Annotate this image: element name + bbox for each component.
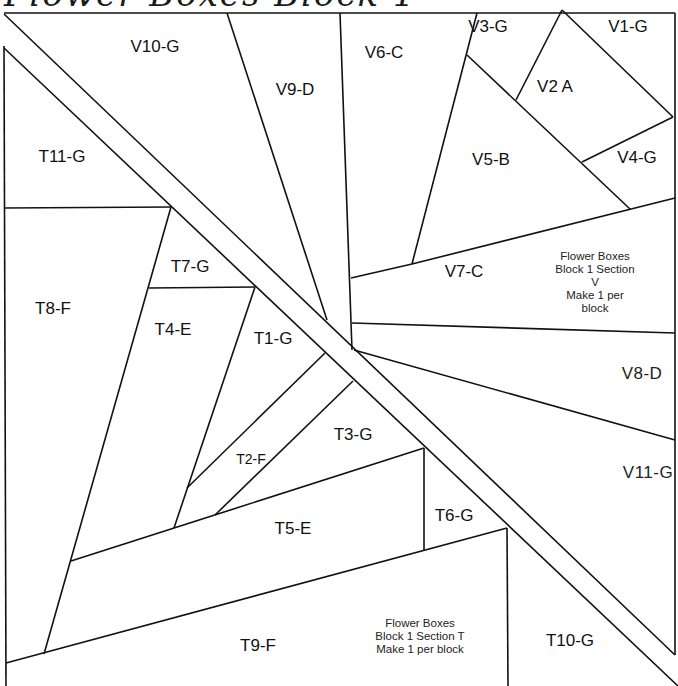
piece-label-t5: T5-E <box>275 519 312 539</box>
piece-label-v10: V10-G <box>130 37 179 57</box>
piece-label-t7: T7-G <box>171 257 210 277</box>
piece-label-t10: T10-G <box>546 631 594 651</box>
piece-label-v2: V2 A <box>537 77 573 97</box>
piece-label-v3: V3-G <box>468 17 508 37</box>
piece-label-t6: T6-G <box>435 506 474 526</box>
piece-label-v1: V1-G <box>608 17 648 37</box>
section-v-note-line3: Make 1 per block <box>554 289 637 315</box>
section-t-note-line3: Make 1 per block <box>375 643 464 656</box>
section-t-note-line1: Flower Boxes <box>375 617 464 630</box>
piece-label-t3: T3-G <box>334 425 373 445</box>
pattern-title: Flower Boxes Block 1 <box>4 0 417 14</box>
piece-label-v5: V5-B <box>472 150 510 170</box>
piece-label-v7: V7-C <box>445 262 484 282</box>
section-t-note: Flower Boxes Block 1 Section T Make 1 pe… <box>375 617 464 656</box>
piece-label-t4: T4-E <box>155 320 192 340</box>
piece-label-t9: T9-F <box>240 636 276 656</box>
piece-label-v6: V6-C <box>365 43 404 63</box>
pattern-lines <box>0 0 678 686</box>
piece-label-t11: T11-G <box>39 147 86 167</box>
piece-label-v11: V11-G <box>623 463 673 483</box>
section-t-note-line2: Block 1 Section T <box>375 630 464 643</box>
section-v-note: Flower Boxes Block 1 Section V Make 1 pe… <box>554 250 637 315</box>
piece-label-t8: T8-F <box>35 299 71 319</box>
piece-label-v9: V9-D <box>276 80 315 100</box>
piece-label-v4: V4-G <box>617 148 657 168</box>
pattern-diagram: Flower Boxes Block 1 <box>0 0 678 686</box>
section-v-note-line2: Block 1 Section V <box>554 263 637 289</box>
piece-label-t2: T2-F <box>236 451 266 467</box>
piece-label-v8: V8-D <box>622 364 663 384</box>
piece-label-t1: T1-G <box>254 329 293 349</box>
section-v-note-line1: Flower Boxes <box>554 250 637 263</box>
